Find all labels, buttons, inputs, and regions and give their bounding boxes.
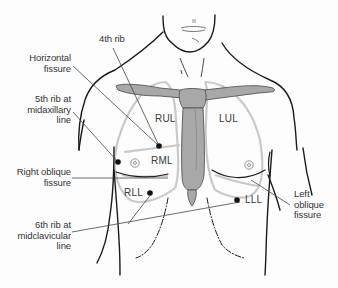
chin-mark — [192, 38, 199, 42]
dot-rll — [147, 190, 153, 196]
mouth-lower — [182, 30, 205, 32]
neck-line-left — [180, 58, 188, 77]
dot-fifth-rib — [115, 159, 121, 165]
manubrium — [179, 89, 206, 109]
right-lung-outline — [115, 82, 175, 202]
horizontal-fissure-line — [124, 145, 180, 152]
label-horizontal-fissure: Horizontal fissure — [29, 53, 71, 74]
lobe-lll: LLL — [245, 194, 262, 205]
neck-mark — [181, 70, 182, 74]
left-nipple-outer — [245, 161, 253, 169]
right-clavicle — [116, 84, 182, 98]
right-nipple-inner — [134, 162, 137, 165]
leader-fifth-rib — [73, 112, 118, 162]
label-fourth-rib: 4th rib — [99, 34, 125, 45]
label-sixth-rib-midclavicular: 6th rib at midclavicular line — [17, 220, 71, 252]
left-axilla — [269, 152, 271, 176]
mouth-upper — [181, 27, 206, 29]
philtrum — [193, 19, 195, 23]
lobe-rll: RLL — [124, 187, 143, 198]
left-nipple-inner — [248, 164, 251, 167]
leader-horizontal-fissure — [73, 66, 159, 146]
dot-fourth-rib — [156, 143, 162, 149]
label-left-oblique-fissure: Left oblique fissure — [294, 189, 324, 221]
right-nipple-outer — [131, 159, 139, 167]
sternum-body — [182, 108, 205, 190]
xiphoid-process — [188, 190, 197, 206]
label-fifth-rib-midaxillary: 5th rib at midaxillary line — [27, 94, 71, 126]
dot-lll — [234, 197, 240, 203]
jaw-outline — [163, 15, 215, 52]
lobe-lul: LUL — [219, 113, 238, 124]
label-right-oblique-fissure: Right oblique fissure — [17, 167, 71, 188]
lobe-rml: RML — [151, 155, 173, 166]
lobe-rul: RUL — [155, 113, 176, 124]
chest-lung-diagram: 4th rib Horizontal fissure 5th rib at mi… — [0, 0, 338, 288]
neck-line-right — [201, 58, 204, 77]
right-torso-outer — [97, 147, 114, 263]
